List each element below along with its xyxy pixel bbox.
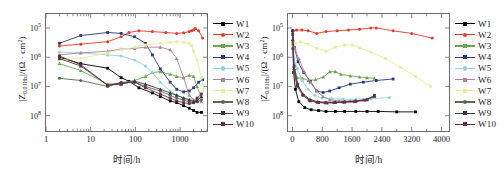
series-w10 [291, 33, 376, 104]
legend-swatch-icon [213, 97, 233, 106]
legend-swatch-icon [213, 120, 233, 129]
legend-item-w10[interactable]: W10 [455, 119, 504, 130]
legend-swatch-icon [455, 75, 475, 84]
legend-item-w1[interactable]: W1 [455, 18, 504, 29]
y-tick-label: 106 [11, 53, 41, 62]
figure-container: |Z0.01Hz|/(Ω · cm2) 108107106105 1101001… [0, 0, 504, 172]
legend-item-w8[interactable]: W8 [455, 96, 504, 107]
legend-item-w2[interactable]: W2 [455, 29, 504, 40]
x-tick-label: 1 [44, 134, 48, 144]
y-tick-label: 107 [253, 82, 283, 91]
legend-label: W10 [478, 119, 496, 129]
legend-swatch-icon [455, 64, 475, 73]
legend-label: W4 [236, 52, 249, 62]
series-w7 [291, 41, 432, 88]
legend-swatch-icon [455, 97, 475, 106]
legend-swatch-icon [455, 19, 475, 28]
legend-swatch-icon [213, 64, 233, 73]
series-w3 [291, 41, 377, 82]
legend-item-w5[interactable]: W5 [455, 63, 504, 74]
series-w4 [291, 29, 394, 94]
legend-swatch-icon [213, 41, 233, 50]
legend-label: W8 [478, 97, 491, 107]
x-tick-label: 4000 [433, 134, 450, 144]
series-w2 [58, 27, 204, 47]
x-tick-label: 3200 [403, 134, 420, 144]
legend-item-w4[interactable]: W4 [455, 52, 504, 63]
legend-label: W5 [236, 63, 249, 73]
legend-label: W3 [478, 41, 491, 51]
legend-item-w9[interactable]: W9 [455, 108, 504, 119]
legend-item-w6[interactable]: W6 [455, 74, 504, 85]
x-tick-label: 2400 [373, 134, 390, 144]
legend-swatch-icon [213, 30, 233, 39]
y-tick-label: 106 [253, 53, 283, 62]
series-w5 [291, 44, 391, 101]
legend-swatch-icon [455, 53, 475, 62]
series-w2 [292, 26, 434, 39]
plot-svg-right [288, 14, 449, 131]
legend-swatch-icon [213, 109, 233, 118]
series-w6 [58, 45, 204, 103]
plot-area-right [287, 13, 450, 132]
x-tick-label: 10 [86, 134, 95, 144]
y-tick-label: 107 [11, 82, 41, 91]
legend-swatch-icon [455, 109, 475, 118]
x-tick-label: 100 [129, 134, 142, 144]
plot-area-left [45, 13, 208, 132]
legend-label: W4 [478, 52, 491, 62]
legend-label: W6 [478, 75, 491, 85]
y-axis-label-right: |Z0.01Hz|/(Ω · cm2) [259, 21, 269, 117]
legend-label: W1 [478, 19, 491, 29]
legend-swatch-icon [455, 86, 475, 95]
legend-swatch-icon [213, 53, 233, 62]
plot-svg-left [46, 14, 207, 131]
y-tick-label: 105 [11, 23, 41, 32]
chart-panel-right: |Z0.01Hz|/(Ω · cm2) 108107106105 0800160… [252, 0, 504, 172]
legend-item-w7[interactable]: W7 [455, 85, 504, 96]
legend-label: W6 [236, 75, 249, 85]
legend-swatch-icon [213, 86, 233, 95]
legend-swatch-icon [213, 75, 233, 84]
legend-label: W2 [236, 30, 249, 40]
legend-label: W7 [236, 86, 249, 96]
legend-label: W9 [478, 108, 491, 118]
series-w4 [58, 31, 204, 93]
legend-label: W7 [478, 86, 491, 96]
legend-swatch-icon [455, 41, 475, 50]
x-tick-label: 1000 [172, 134, 189, 144]
legend-swatch-icon [455, 30, 475, 39]
legend-label: W1 [236, 19, 249, 29]
y-axis-label-left: |Z0.01Hz|/(Ω · cm2) [17, 21, 27, 117]
legend-right: W1W2W3W4W5W6W7W8W9W10 [455, 18, 504, 130]
legend-label: W3 [236, 41, 249, 51]
y-tick-label: 108 [253, 111, 283, 120]
legend-label: W8 [236, 97, 249, 107]
chart-panel-left: |Z0.01Hz|/(Ω · cm2) 108107106105 1101001… [0, 0, 252, 172]
legend-label: W2 [478, 30, 491, 40]
x-tick-label: 1600 [344, 134, 361, 144]
y-tick-label: 105 [253, 23, 283, 32]
legend-item-w3[interactable]: W3 [455, 40, 504, 51]
x-tick-label: 800 [316, 134, 329, 144]
x-axis-label-left: 时间/h [45, 152, 208, 166]
y-tick-label: 108 [11, 111, 41, 120]
x-axis-label-right: 时间/h [287, 152, 450, 166]
legend-swatch-icon [455, 120, 475, 129]
legend-label: W9 [236, 108, 249, 118]
legend-swatch-icon [213, 19, 233, 28]
legend-label: W5 [478, 63, 491, 73]
x-tick-label: 0 [290, 134, 294, 144]
